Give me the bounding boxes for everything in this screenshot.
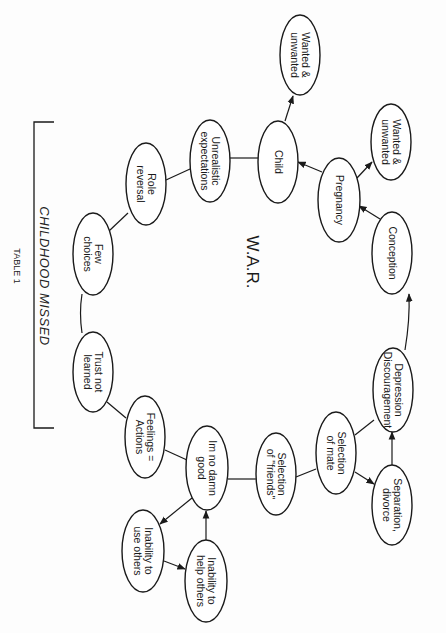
node-label-line: choices — [82, 236, 94, 272]
edge-feelings_actions-to-no_damn_good-line — [165, 450, 187, 460]
edge-child-to-wanted_top-arrow — [285, 96, 293, 121]
edge-depression-to-conception-arrow — [405, 294, 409, 350]
edge-pregnancy-to-wanted_right-arrow — [357, 162, 372, 178]
node-label-line: good — [196, 456, 208, 480]
edge-pregnancy-to-child-arrow — [298, 162, 322, 172]
node-label: Selectionof mate — [325, 431, 348, 474]
edge-unrealistic-to-role_reversal-line — [166, 169, 190, 180]
node-depression: DepressionDiscouragement — [373, 348, 413, 432]
nodes-layer: Wanted &unwantedWanted &unwantedChildPre… — [73, 15, 413, 622]
node-unrealistic: Unrealisticexpectations — [190, 120, 230, 202]
diagram-canvas: Wanted &unwantedWanted &unwantedChildPre… — [0, 0, 446, 633]
node-label: Unrealisticexpectations — [199, 132, 222, 191]
node-label-line: learned — [82, 354, 94, 389]
node-label: Wanted &unwanted — [289, 32, 312, 78]
node-label-line: Actions — [134, 420, 146, 454]
table-caption: TABLE 1 — [12, 248, 22, 283]
node-few-choices: Fewchoices — [73, 213, 113, 295]
node-label: Conception — [387, 226, 399, 279]
edge-trust_not_learned-to-feelings_actions-line — [107, 402, 126, 418]
edge-inability_use-to-inability_help-arrow — [164, 561, 185, 569]
node-label-line: unwanted — [289, 32, 301, 78]
node-label: Child — [273, 150, 285, 174]
node-label-line: Discouragement — [382, 352, 394, 429]
bracket-label: CHILDHOOD MISSED — [37, 206, 52, 345]
node-wanted-top: Wanted &unwanted — [280, 15, 320, 95]
node-label-line: help others — [195, 555, 207, 607]
node-label-line: of "friends" — [265, 449, 277, 500]
edge-no_damn_good-to-inability_use-arrow — [160, 498, 192, 524]
node-label-line: of mate — [325, 435, 337, 470]
node-label-line: Child — [273, 150, 285, 174]
edge-selection_mate-to-separation-arrow — [355, 472, 374, 484]
node-label-line: Pregnancy — [334, 175, 346, 226]
node-pregnancy: Pregnancy — [318, 158, 360, 242]
node-child: Child — [258, 121, 298, 203]
node-label: Trust notlearned — [82, 351, 105, 392]
edge-few_choices-to-trust_not_learned-line — [81, 294, 83, 333]
node-no-damn-good: Im no damngood — [186, 426, 228, 510]
node-label-line: unwanted — [380, 119, 392, 165]
edge-conception-to-pregnancy-arrow — [359, 206, 380, 219]
node-label: Inability tohelp others — [195, 555, 218, 607]
node-separation: Separation,divorce — [372, 465, 412, 545]
node-label: Pregnancy — [334, 175, 346, 226]
center-label: W.A.R. — [243, 236, 262, 289]
node-label: Selectionof "friends" — [265, 449, 288, 500]
node-trust-not-learned: Trust notlearned — [73, 332, 113, 412]
edge-selection_friends-to-selection_mate-line — [296, 469, 316, 477]
war-cycle-diagram: Wanted &unwantedWanted &unwantedChildPre… — [0, 0, 446, 633]
edge-role_reversal-to-few_choices-line — [109, 213, 128, 231]
node-label: Feelings =Actions — [134, 413, 157, 462]
edge-selection_mate-to-depression-line — [355, 420, 374, 435]
node-label-line: expectations — [199, 132, 211, 191]
node-label-line: reversal — [135, 165, 147, 202]
node-label-line: use others — [132, 526, 144, 575]
node-wanted-right: Wanted &unwanted — [371, 104, 411, 180]
node-inability-help: Inability tohelp others — [185, 540, 227, 622]
node-feelings-actions: Feelings =Actions — [125, 396, 165, 478]
node-label: Inability touse others — [132, 526, 155, 575]
node-selection-friends: Selectionof "friends" — [256, 433, 296, 515]
node-label: Wanted &unwanted — [380, 119, 403, 165]
node-inability-use: Inability touse others — [122, 510, 164, 592]
node-label-line: divorce — [381, 488, 393, 522]
node-selection-mate: Selectionof mate — [316, 412, 356, 494]
node-label-line: Conception — [387, 226, 399, 279]
node-role-reversal: Rolereversal — [126, 143, 166, 225]
node-conception: Conception — [372, 212, 412, 294]
